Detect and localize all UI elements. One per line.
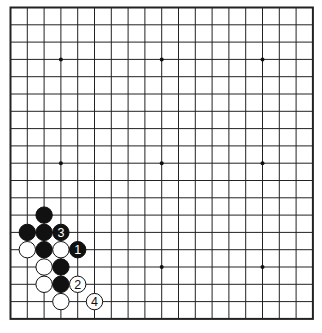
stone-disc — [53, 259, 69, 275]
stone-disc — [36, 276, 52, 292]
star-point — [261, 57, 265, 61]
stone-disc — [53, 276, 69, 292]
black-stone — [36, 224, 52, 240]
black-stone — [36, 242, 52, 258]
move-number: 1 — [74, 243, 81, 257]
white-stone — [53, 242, 69, 258]
black-stone — [19, 224, 35, 240]
white-stone-4: 4 — [86, 293, 102, 309]
black-stone — [36, 207, 52, 223]
stone-disc — [36, 259, 52, 275]
star-point — [160, 57, 164, 61]
white-stone — [36, 276, 52, 292]
white-stone-2: 2 — [70, 276, 86, 292]
black-stone-1: 1 — [70, 242, 86, 258]
white-stone — [36, 259, 52, 275]
stone-disc — [19, 224, 35, 240]
stone-disc — [36, 207, 52, 223]
stone-disc — [36, 242, 52, 258]
star-point — [59, 57, 63, 61]
black-stone-3: 3 — [53, 224, 69, 240]
stone-disc — [19, 242, 35, 258]
star-point — [261, 161, 265, 165]
move-number: 2 — [74, 278, 81, 292]
star-point — [261, 265, 265, 269]
star-point — [160, 265, 164, 269]
go-board: 3124 — [0, 0, 322, 333]
stone-disc — [53, 242, 69, 258]
stone-disc — [36, 224, 52, 240]
black-stone — [53, 276, 69, 292]
star-point — [160, 161, 164, 165]
star-point — [59, 161, 63, 165]
stone-disc — [53, 293, 69, 309]
move-number: 4 — [91, 295, 98, 309]
black-stone — [53, 259, 69, 275]
white-stone — [19, 242, 35, 258]
move-number: 3 — [57, 226, 64, 240]
white-stone — [53, 293, 69, 309]
